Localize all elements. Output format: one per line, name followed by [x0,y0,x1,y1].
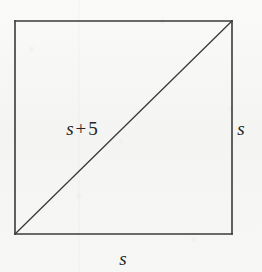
geometry-figure: s+5 s s [0,0,262,272]
diagonal-line [15,21,232,234]
label-hypotenuse: s+5 [66,119,98,138]
label-bottom-side: s [119,249,126,268]
square-diagonal-drawing [0,0,262,272]
hypotenuse-number: 5 [88,118,98,139]
hypotenuse-operator: + [74,118,89,139]
right-side-variable: s [237,118,244,139]
label-right-side: s [237,119,244,138]
bottom-side-variable: s [119,248,126,269]
